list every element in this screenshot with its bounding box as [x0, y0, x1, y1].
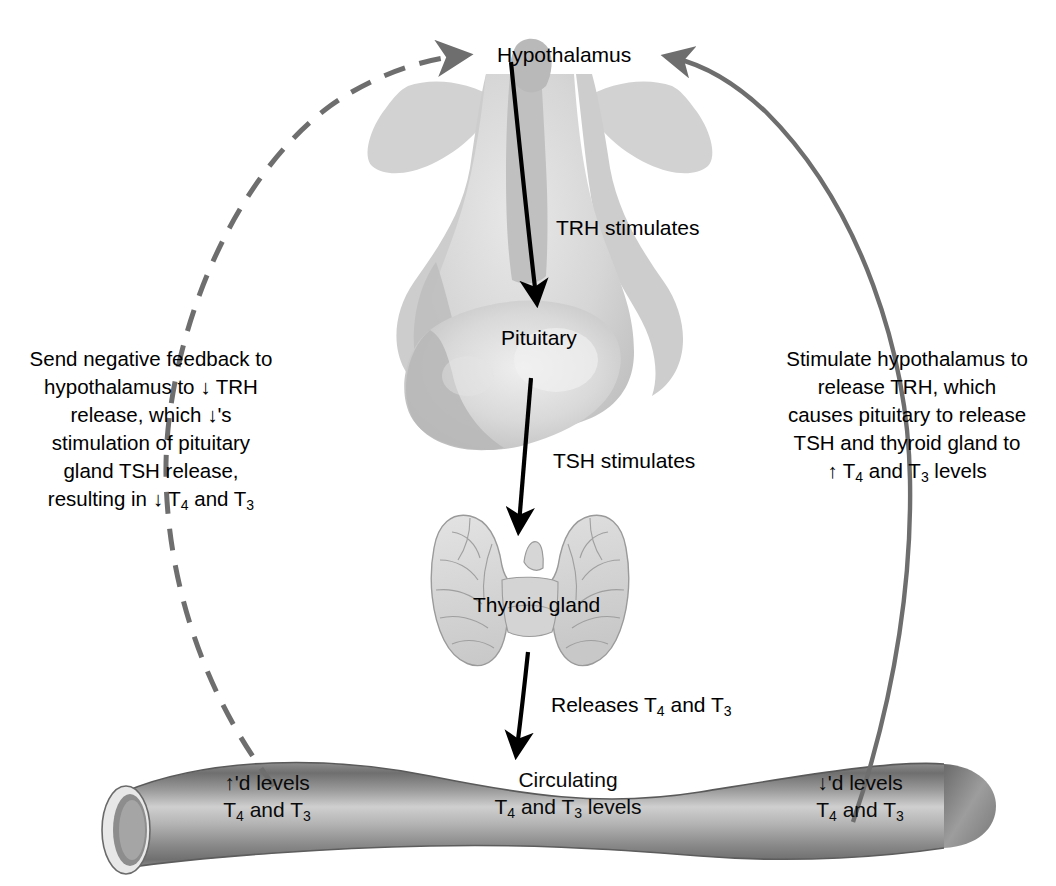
vessel-label-increased-levels: ↑'d levelsT4 and T3 [182, 769, 352, 830]
label-thyroid-gland: Thyroid gland [473, 592, 600, 618]
vessel-label-circulating-levels: CirculatingT4 and T3 levels [458, 766, 678, 827]
hypothalamus-gland-illustration [368, 39, 713, 450]
positive-stimulation-text: Stimulate hypothalamus torelease TRH, wh… [776, 345, 1038, 491]
negative-feedback-text: Send negative feedback tohypothalamus to… [20, 345, 282, 519]
release-arrow [517, 652, 528, 748]
label-hypothalamus: Hypothalamus [497, 42, 631, 68]
label-tsh-stimulates: TSH stimulates [553, 448, 695, 474]
thyroid-gland-illustration [431, 515, 629, 665]
label-releases-t4-t3: Releases T4 and T3 [551, 692, 732, 724]
thyroid-feedback-diagram: Hypothalamus TRH stimulates Pituitary TS… [0, 0, 1056, 886]
vessel-label-decreased-levels: ↓'d levelsT4 and T3 [775, 769, 945, 830]
label-trh-stimulates: TRH stimulates [556, 215, 700, 241]
label-pituitary: Pituitary [501, 325, 577, 351]
